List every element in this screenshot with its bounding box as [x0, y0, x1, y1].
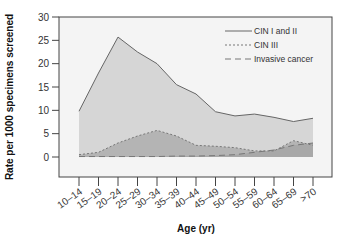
- legend-label-cin-iii: CIN III: [254, 40, 278, 50]
- y-tick-label: 15: [38, 82, 50, 93]
- y-tick-label: 5: [43, 128, 49, 139]
- y-tick-label: 25: [38, 35, 50, 46]
- y-axis-title: Rate per 1000 specimens screened: [4, 14, 15, 180]
- x-axis: 10–1415–1920–2425–2930–3435–3940–4445–49…: [55, 177, 318, 211]
- y-tick-label: 30: [38, 12, 50, 23]
- legend-label-cin-i-ii: CIN I and II: [254, 26, 297, 36]
- x-tick-label: >70: [298, 185, 319, 204]
- legend-label-invasive-cancer: Invasive cancer: [254, 54, 313, 64]
- y-tick-label: 20: [38, 58, 50, 69]
- y-axis: 051015202530: [38, 12, 59, 163]
- y-tick-label: 10: [38, 105, 50, 116]
- y-tick-label: 0: [43, 152, 49, 163]
- chart: 051015202530 10–1415–1920–2425–2930–3435…: [0, 0, 340, 241]
- x-axis-title: Age (yr): [177, 223, 215, 234]
